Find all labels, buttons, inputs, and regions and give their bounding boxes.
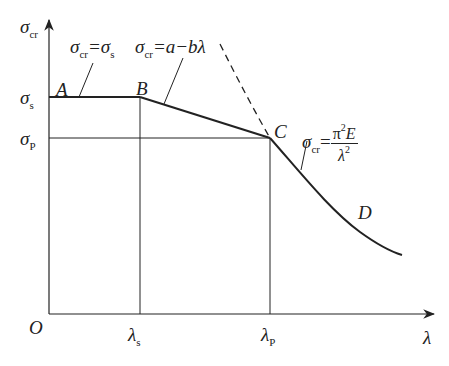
point-c-label: C: [274, 122, 287, 141]
formula-ab: σcr=σs: [70, 37, 114, 60]
sigma-s-label: σs: [20, 88, 34, 111]
sigma-p-label: σP: [20, 129, 36, 152]
leader-bc: [164, 58, 183, 104]
point-b-label: B: [136, 79, 148, 98]
y-axis-label: σcr: [20, 17, 38, 40]
point-a-label: A: [56, 80, 68, 99]
point-d-label: D: [358, 203, 372, 222]
cropped-header-text: [0, 0, 449, 5]
leader-ab: [79, 63, 93, 97]
x-axis-label: λ: [423, 328, 431, 347]
lambda-p-label: λP: [261, 325, 275, 348]
critical-stress-diagram: [0, 0, 449, 366]
lambda-s-label: λs: [128, 325, 141, 348]
formula-cd: σcr=π2Eλ2: [302, 123, 358, 164]
formula-bc: σcr=a−bλ: [135, 37, 206, 60]
origin-label: O: [29, 318, 43, 337]
